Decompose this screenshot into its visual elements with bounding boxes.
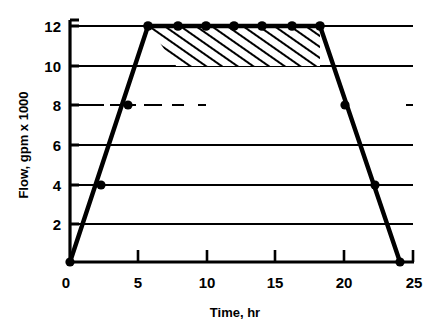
marker-point [123, 100, 132, 109]
y-axis-title: Flow, gpm x 1000 [16, 91, 31, 198]
x-tick-label: 15 [267, 274, 284, 291]
x-tick-label: 10 [199, 274, 216, 291]
marker-point [395, 257, 404, 266]
marker-point [143, 21, 153, 31]
x-tick-label: 5 [134, 274, 142, 291]
marker-point [340, 100, 349, 109]
marker-point [370, 180, 379, 189]
marker-point [315, 21, 325, 31]
y-tick-label: 8 [53, 97, 61, 114]
marker-point [96, 180, 105, 189]
x-axis-title: Time, hr [210, 305, 260, 320]
x-tick-label: 25 [406, 274, 423, 291]
y-tick-label: 10 [44, 58, 61, 75]
x-tick-label: 20 [336, 274, 353, 291]
marker-point [287, 21, 297, 31]
marker-point [229, 21, 239, 31]
y-tick-label: 6 [53, 137, 61, 154]
x-axis-ticks [138, 250, 413, 262]
y-tick-labels: 12 10 8 6 4 2 [44, 18, 61, 233]
y-tick-label: 4 [53, 177, 62, 194]
marker-point [257, 21, 267, 31]
hatched-region [140, 24, 330, 70]
marker-point [65, 257, 74, 266]
x-tick-labels: 0 5 10 15 20 25 [62, 274, 423, 291]
marker-point [173, 21, 183, 31]
x-tick-label: 0 [62, 274, 70, 291]
y-tick-label: 12 [44, 18, 61, 35]
flow-vs-time-chart: 12 10 8 6 4 2 0 5 10 15 20 25 Time, hr F… [0, 0, 424, 332]
y-tick-label: 2 [53, 216, 61, 233]
chart-svg: 12 10 8 6 4 2 0 5 10 15 20 25 Time, hr F… [0, 0, 424, 332]
marker-point [201, 21, 211, 31]
